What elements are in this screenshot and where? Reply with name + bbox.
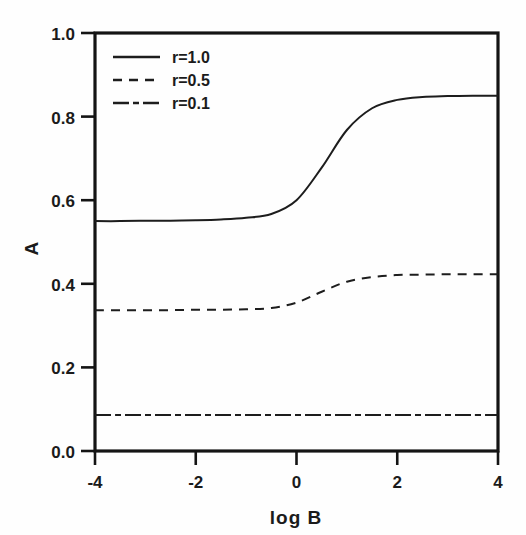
y-axis-tick-labels: 1.0 0.8 0.6 0.4 0.2 0.0: [51, 25, 75, 462]
x-tick-label: 4: [493, 473, 503, 492]
y-axis-title: A: [21, 241, 42, 256]
legend-label-2: r=0.1: [172, 95, 210, 112]
x-axis-tick-labels: -4 -2 0 2 4: [87, 473, 503, 492]
legend-label-0: r=1.0: [172, 49, 210, 66]
x-tick-label: 2: [393, 473, 402, 492]
chart-legend: r=1.0 r=0.5 r=0.1: [113, 49, 210, 112]
y-tick-label: 0.0: [51, 443, 75, 462]
x-axis-ticks: [95, 451, 498, 465]
y-axis-ticks: [81, 33, 95, 451]
x-axis-title: log B: [270, 507, 323, 528]
x-tick-label: -2: [188, 473, 203, 492]
line-chart: 1.0 0.8 0.6 0.4 0.2 0.0 -4 -2 0 2 4 A lo…: [0, 0, 526, 535]
y-tick-label: 0.2: [51, 359, 75, 378]
y-tick-label: 0.8: [51, 109, 75, 128]
series-line-r-0-5: [95, 274, 498, 310]
data-curves: [95, 96, 498, 415]
y-tick-label: 0.4: [51, 276, 75, 295]
series-line-r-1-0: [95, 96, 498, 221]
y-tick-label: 1.0: [51, 25, 75, 44]
legend-label-1: r=0.5: [172, 72, 210, 89]
x-tick-label: 0: [292, 473, 301, 492]
chart-figure: 1.0 0.8 0.6 0.4 0.2 0.0 -4 -2 0 2 4 A lo…: [0, 0, 526, 535]
y-tick-label: 0.6: [51, 192, 75, 211]
x-tick-label: -4: [87, 473, 103, 492]
